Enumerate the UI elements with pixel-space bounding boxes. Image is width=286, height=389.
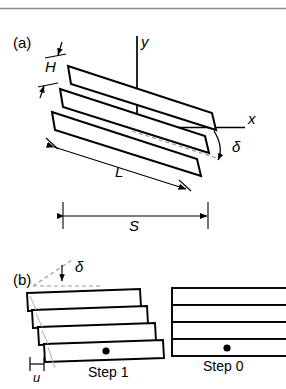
diagram-canvas bbox=[0, 0, 286, 389]
offset-dimension-u bbox=[30, 357, 44, 371]
label-angle-delta-b: δ bbox=[75, 258, 83, 275]
step-0-stack bbox=[172, 288, 286, 356]
label-axis-y: y bbox=[141, 33, 149, 50]
figure-root: (a) H y x δ L S (b) δ u Step 1 Step 0 bbox=[0, 0, 286, 389]
angle-arc-delta bbox=[214, 131, 220, 160]
angle-construction-delta-b bbox=[33, 260, 103, 286]
panel-a-graphics bbox=[38, 36, 245, 229]
label-length-L: L bbox=[115, 163, 123, 180]
panel-b-label: (b) bbox=[13, 271, 31, 288]
step-1-stack bbox=[27, 289, 164, 368]
label-step-0: Step 0 bbox=[203, 358, 243, 374]
panel-b-graphics bbox=[27, 260, 286, 371]
label-step-1: Step 1 bbox=[88, 364, 128, 380]
label-angle-delta-a: δ bbox=[232, 138, 240, 155]
marker-dot-step-0 bbox=[223, 344, 230, 351]
label-thickness-H: H bbox=[45, 58, 56, 75]
marker-dot-step-1 bbox=[102, 347, 109, 354]
label-axis-x: x bbox=[248, 110, 256, 127]
label-offset-u: u bbox=[33, 370, 40, 385]
label-span-S: S bbox=[129, 217, 139, 234]
panel-a-label: (a) bbox=[13, 34, 31, 51]
